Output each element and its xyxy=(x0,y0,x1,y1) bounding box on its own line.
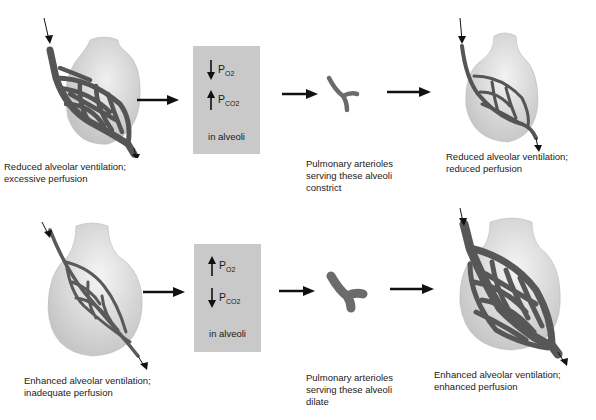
in-alveoli-label: in alveoli xyxy=(194,328,261,339)
right-arrow xyxy=(387,86,431,98)
alveolar-gas-box-row1: PO2 PCO2 in alveoli xyxy=(193,46,260,154)
end-caption-row2: Enhanced alveolar ventilation; enhanced … xyxy=(434,369,561,393)
constricted-arteriole xyxy=(325,74,365,116)
arteriole-caption-row2: Pulmonary arterioles serving these alveo… xyxy=(306,372,393,408)
po2-decrease: PO2 xyxy=(207,60,234,80)
start-caption-row1: Reduced alveolar ventilation; excessive … xyxy=(4,161,126,185)
right-arrow xyxy=(282,88,318,100)
in-alveoli-label: in alveoli xyxy=(193,131,260,142)
down-arrow-icon xyxy=(207,60,215,80)
pco2-increase: PCO2 xyxy=(207,90,239,110)
down-arrow-icon xyxy=(208,288,216,308)
start-caption-row2: Enhanced alveolar ventilation; inadequat… xyxy=(24,375,151,399)
alveolar-gas-box-row2: PO2 PCO2 in alveoli xyxy=(194,244,261,352)
alveolus-enhanced-ventilation-inadequate-perfusion xyxy=(14,222,164,372)
alveolus-reduced-ventilation-reduced-perfusion xyxy=(452,18,562,153)
right-arrow xyxy=(143,286,185,298)
up-arrow-icon xyxy=(207,90,215,110)
alveolus-reduced-ventilation-excessive-perfusion xyxy=(30,8,160,158)
po2-increase: PO2 xyxy=(208,256,235,276)
dilated-arteriole xyxy=(325,270,369,314)
right-arrow xyxy=(390,283,434,295)
up-arrow-icon xyxy=(208,256,216,276)
pco2-decrease: PCO2 xyxy=(208,288,240,308)
right-arrow xyxy=(279,285,315,297)
alveolus-enhanced-ventilation-enhanced-perfusion xyxy=(440,208,590,368)
arteriole-caption-row1: Pulmonary arterioles serving these alveo… xyxy=(306,158,393,194)
right-arrow xyxy=(137,94,179,106)
end-caption-row1: Reduced alveolar ventilation; reduced pe… xyxy=(446,151,568,175)
